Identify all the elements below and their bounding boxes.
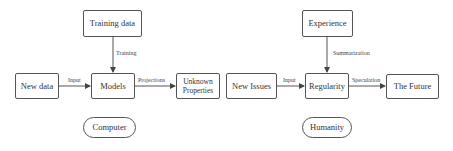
training-edge-label: Training	[116, 50, 136, 56]
speculation-edge-label: Speculation	[352, 77, 380, 83]
new-data-node: New data	[15, 73, 59, 99]
training-data-node: Training data	[83, 10, 142, 37]
new-issues-node: New Issues	[226, 73, 277, 99]
input-edge-label-computer: Input	[68, 77, 81, 83]
projections-edge-label: Projections	[138, 77, 165, 83]
computer-caption: Computer	[83, 117, 136, 138]
the-future-node: The Future	[386, 74, 439, 99]
summarization-edge-label: Summarization	[333, 50, 370, 56]
regularity-node: Regularity	[305, 73, 349, 99]
input-edge-label-humanity: Input	[283, 77, 296, 83]
models-node: Models	[91, 73, 135, 99]
humanity-caption: Humanity	[302, 117, 352, 138]
experience-node: Experience	[302, 10, 353, 37]
unknown-properties-node: Unknown Properties	[176, 73, 220, 99]
